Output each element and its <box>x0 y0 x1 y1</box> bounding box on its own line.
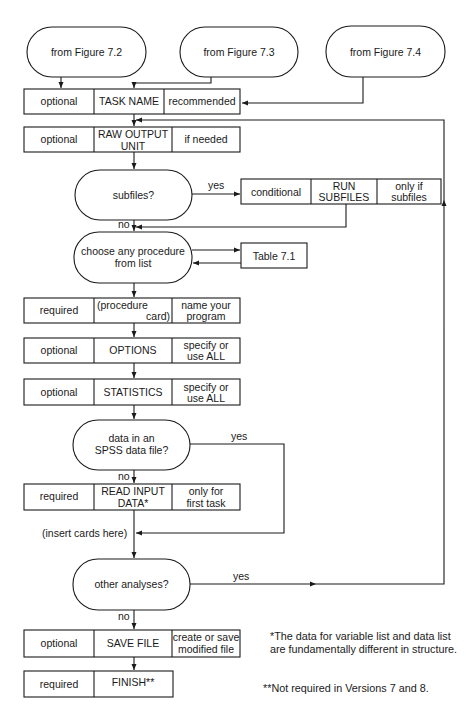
row-options: optional OPTIONS specify or use ALL <box>24 338 240 363</box>
svg-text:OPTIONS: OPTIONS <box>109 344 156 356</box>
svg-text:choose any procedure: choose any procedure <box>81 245 185 257</box>
svg-text:SUBFILES: SUBFILES <box>319 191 370 203</box>
terminal-from-figure-7-4: from Figure 7.4 <box>326 26 445 77</box>
svg-text:use ALL: use ALL <box>187 392 225 404</box>
svg-text:TASK NAME: TASK NAME <box>99 95 159 107</box>
svg-text:from Figure 7.3: from Figure 7.3 <box>203 46 274 58</box>
svg-text:STATISTICS: STATISTICS <box>103 386 162 398</box>
row-run-subfiles: conditional RUN SUBFILES only if subfile… <box>241 179 441 204</box>
no-label-other: no <box>118 610 130 622</box>
svg-text:from Figure 7.4: from Figure 7.4 <box>350 46 421 58</box>
decision-subfiles: subfiles? <box>75 170 192 220</box>
svg-text:optional: optional <box>41 95 78 107</box>
yes-label-other: yes <box>233 570 249 582</box>
yes-label-data: yes <box>231 430 247 442</box>
svg-text:Table 7.1: Table 7.1 <box>253 250 296 262</box>
svg-text:required: required <box>40 678 79 690</box>
insert-cards-label: (insert cards here) <box>42 527 127 539</box>
svg-text:modified file: modified file <box>178 643 234 655</box>
terminal-from-figure-7-3: from Figure 7.3 <box>180 27 298 77</box>
row-read-input-data: required READ INPUT DATA* only for first… <box>24 484 240 510</box>
terminal-from-figure-7-2: from Figure 7.2 <box>27 27 146 77</box>
svg-text:SAVE FILE: SAVE FILE <box>107 637 159 649</box>
row-task-name: optional TASK NAME recommended <box>24 89 240 114</box>
svg-text:if needed: if needed <box>184 133 227 145</box>
svg-text:optional: optional <box>41 637 78 649</box>
decision-choose-procedure: choose any procedure from list <box>74 232 192 283</box>
svg-text:create or save: create or save <box>173 631 240 643</box>
row-save-file: optional SAVE FILE create or save modifi… <box>24 630 240 657</box>
flowchart: from Figure 7.2 from Figure 7.3 from Fig… <box>0 0 470 724</box>
svg-text:card): card) <box>146 310 170 322</box>
svg-text:DATA*: DATA* <box>118 497 149 509</box>
svg-text:conditional: conditional <box>251 186 301 198</box>
svg-text:other analyses?: other analyses? <box>94 578 168 590</box>
svg-text:optional: optional <box>41 386 78 398</box>
svg-text:data in an: data in an <box>108 432 154 444</box>
decision-data-in-spss-file: data in an SPSS data file? <box>73 420 190 470</box>
svg-text:program: program <box>186 310 225 322</box>
svg-text:subfiles: subfiles <box>391 191 427 203</box>
svg-text:required: required <box>40 490 79 502</box>
svg-text:only for: only for <box>189 485 224 497</box>
row-statistics: optional STATISTICS specify or use ALL <box>24 379 240 405</box>
svg-text:SPSS data file?: SPSS data file? <box>95 444 169 456</box>
svg-text:first task: first task <box>186 497 226 509</box>
svg-text:recommended: recommended <box>168 95 235 107</box>
no-label: no <box>118 218 130 230</box>
svg-text:subfiles?: subfiles? <box>113 189 155 201</box>
svg-text:from Figure 7.2: from Figure 7.2 <box>51 46 122 58</box>
footnote-double-asterisk: **Not required in Versions 7 and 8. <box>263 682 463 695</box>
no-label-data: no <box>118 470 130 482</box>
svg-text:(procedure: (procedure <box>97 299 148 311</box>
svg-text:RAW OUTPUT: RAW OUTPUT <box>98 128 169 140</box>
yes-label: yes <box>208 179 224 191</box>
svg-text:required: required <box>40 304 79 316</box>
row-finish: required FINISH** <box>24 671 173 697</box>
svg-text:use ALL: use ALL <box>187 350 225 362</box>
footnote-single-asterisk: *The data for variable list and data lis… <box>270 630 460 656</box>
svg-text:optional: optional <box>41 133 78 145</box>
row-raw-output-unit: optional RAW OUTPUT UNIT if needed <box>24 127 240 152</box>
svg-text:from list: from list <box>115 257 152 269</box>
svg-text:FINISH**: FINISH** <box>112 676 155 688</box>
reference-table-7-1: Table 7.1 <box>241 243 307 268</box>
decision-other-analyses: other analyses? <box>73 559 190 610</box>
svg-text:UNIT: UNIT <box>121 140 146 152</box>
svg-text:READ INPUT: READ INPUT <box>101 485 165 497</box>
row-procedure-card: required (procedure card) name your prog… <box>24 298 240 323</box>
svg-text:optional: optional <box>41 344 78 356</box>
